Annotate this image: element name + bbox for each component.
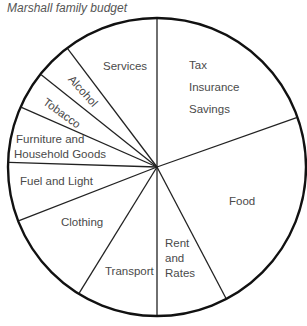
slice-divider [9, 162, 157, 167]
slice-label-furniture-household-goods: Furniture and Household Goods [14, 133, 106, 160]
label-line: Furniture and [16, 133, 84, 145]
slice-label-clothing: Clothing [61, 216, 103, 228]
slice-label-transport: Transport [105, 265, 155, 277]
slice-label-services: Services [103, 60, 147, 72]
chart-title: Marshall family budget [7, 1, 128, 15]
label-line: Household Goods [14, 148, 106, 160]
slice-label-fuel-and-light: Fuel and Light [20, 175, 94, 187]
slice-label-alcohol: Alcohol [66, 73, 100, 109]
pie-chart: Marshall family budget Tax Insurance Sav… [0, 0, 307, 326]
label-line: Rent [165, 237, 190, 249]
slice-label-rent-and-rates: Rent and Rates [165, 237, 195, 279]
slice-divider [157, 118, 297, 167]
label-line: Savings [189, 103, 230, 115]
slice-label-food: Food [229, 195, 255, 207]
slice-label-tax-insurance-savings: Tax Insurance Savings [189, 59, 240, 115]
label-line: Insurance [189, 81, 240, 93]
label-line: Tax [189, 59, 207, 71]
label-line: Rates [165, 267, 195, 279]
pie-chart-svg: Marshall family budget Tax Insurance Sav… [0, 0, 307, 326]
label-line: and [165, 252, 184, 264]
